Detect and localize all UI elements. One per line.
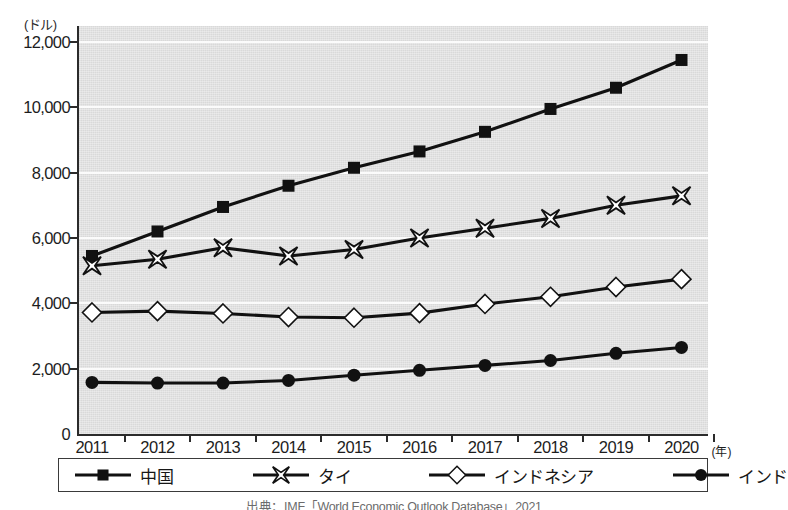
y-axis-tick: [70, 302, 79, 304]
marker-filled-square: [283, 180, 295, 192]
marker-open-diamond: [410, 304, 429, 323]
y-axis-tick: [70, 172, 79, 174]
marker-filled-square: [152, 225, 164, 237]
series-line: [92, 347, 682, 383]
marker-filled-square: [414, 145, 426, 157]
series-line: [92, 279, 682, 318]
series-2: [83, 270, 692, 328]
marker-filled-circle: [675, 341, 688, 354]
marker-filled-square: [217, 201, 229, 213]
marker-open-diamond: [476, 294, 495, 313]
legend: 中国タイインドネシアインド: [58, 458, 708, 492]
marker-open-diamond: [448, 466, 465, 483]
legend-label: タイ: [318, 463, 351, 488]
series-line: [92, 60, 682, 256]
legend-item-0[interactable]: 中国: [73, 463, 173, 488]
marker-filled-circle: [282, 374, 295, 387]
legend-label: インド: [738, 463, 788, 488]
marker-open-diamond: [541, 287, 560, 306]
marker-filled-circle: [217, 377, 230, 390]
marker-filled-square: [97, 469, 108, 480]
legend-label: 中国: [140, 463, 173, 488]
marker-filled-square: [479, 126, 491, 138]
legend-marker-filled-square: [73, 465, 133, 485]
marker-filled-square: [545, 103, 557, 115]
source-note: 出典：IMF「World Economic Outlook Database」2…: [246, 496, 542, 510]
marker-open-diamond: [148, 302, 167, 321]
series-0: [86, 54, 688, 262]
legend-item-2[interactable]: インドネシア: [427, 463, 593, 488]
legend-item-3[interactable]: インド: [671, 463, 788, 488]
marker-open-diamond: [345, 308, 364, 327]
marker-filled-circle: [544, 354, 557, 367]
y-axis-tick: [70, 41, 79, 43]
series-3: [86, 341, 689, 390]
series-1: [83, 187, 691, 275]
marker-filled-square: [610, 82, 622, 94]
marker-filled-circle: [151, 377, 164, 390]
marker-filled-circle: [479, 359, 492, 372]
y-axis-tick: [70, 368, 79, 370]
marker-open-diamond: [279, 308, 298, 327]
marker-filled-circle: [413, 364, 426, 377]
marker-open-diamond: [607, 278, 626, 297]
series-line: [92, 196, 682, 266]
marker-filled-circle: [348, 369, 361, 382]
marker-filled-circle: [86, 376, 99, 389]
marker-filled-square: [676, 54, 688, 66]
legend-marker-open-diamond: [427, 465, 487, 485]
y-axis-tick: [70, 106, 79, 108]
y-axis-tick: [70, 237, 79, 239]
marker-open-diamond: [672, 270, 691, 289]
marker-filled-circle: [695, 469, 707, 481]
marker-open-diamond: [214, 304, 233, 323]
legend-item-1[interactable]: タイ: [251, 463, 351, 488]
marker-filled-circle: [610, 347, 623, 360]
legend-label: インドネシア: [494, 463, 593, 488]
marker-open-diamond: [83, 303, 102, 322]
marker-filled-square: [348, 162, 360, 174]
legend-marker-filled-circle: [671, 465, 731, 485]
legend-marker-x-cross: [251, 465, 311, 485]
